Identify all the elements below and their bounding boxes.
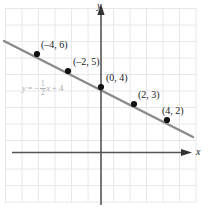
point-label-neg2-5: (–2, 5) <box>73 57 100 67</box>
equation-lhs: y <box>22 84 26 93</box>
data-point <box>164 117 170 123</box>
data-point <box>98 84 104 90</box>
point-label-0-4: (0, 4) <box>106 73 128 83</box>
point-label-2-3: (2, 3) <box>138 90 160 100</box>
point-label-4-2: (4, 2) <box>162 106 184 116</box>
fraction-numerator: 1 <box>40 80 46 88</box>
y-axis <box>97 4 104 205</box>
coordinate-plane-figure: (–4, 6) (–2, 5) (0, 4) (2, 3) (4, 2) y =… <box>0 0 212 210</box>
point-label-neg4-6: (–4, 6) <box>41 40 68 50</box>
equation-annotation: y = − 1 2 x + 4 <box>22 80 63 98</box>
equation-constant-term: + 4 <box>52 84 64 93</box>
equation-minus-sign: − <box>34 84 39 93</box>
fraction-denominator: 2 <box>40 89 46 97</box>
data-point <box>131 101 137 107</box>
x-axis-label: x <box>196 147 200 157</box>
data-point <box>65 68 71 74</box>
y-axis-label: y <box>97 1 101 11</box>
data-point <box>34 51 40 57</box>
equation-fraction: 1 2 <box>40 80 46 98</box>
equation-variable: x <box>46 84 50 93</box>
equation-equals: = <box>28 84 33 93</box>
